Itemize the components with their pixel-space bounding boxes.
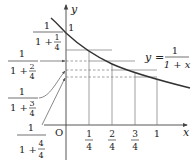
tick-1: 1 [154, 128, 160, 139]
left-label-4-den-den: 4 [38, 151, 43, 160]
left-label-4-num: 1 [28, 122, 34, 133]
tick-1-4-num: 1 [86, 129, 92, 139]
left-label-4-den-a: 1 + [19, 144, 37, 155]
function-num: 1 [172, 45, 178, 56]
tick-2-4-num: 2 [109, 129, 115, 139]
left-label-1-den-den: 4 [54, 43, 59, 52]
left-label-3-den-num: 3 [29, 99, 34, 108]
left-label-1-den-a: 1 + [35, 36, 53, 47]
left-label-3: 1 1 + 3 4 [8, 86, 38, 118]
tick-3-4-den: 4 [132, 142, 138, 152]
origin-label: O [55, 127, 63, 138]
left-label-3-den-a: 1 + [10, 102, 28, 113]
left-label-2-num: 1 [19, 48, 25, 59]
left-label-4: 1 1 + 4 4 [17, 122, 46, 160]
left-label-2-den-a: 1 + [10, 65, 28, 76]
left-label-3-den-den: 4 [29, 109, 34, 118]
tick-3-4-num: 3 [132, 129, 138, 139]
left-label-1-den-num: 1 [54, 33, 59, 42]
left-label-4-den-num: 4 [38, 139, 43, 148]
function-lhs: y [144, 51, 152, 64]
left-label-3-num: 1 [19, 86, 25, 97]
left-label-2: 1 1 + 2 4 [8, 48, 38, 81]
left-label-2-den-num: 2 [29, 62, 34, 71]
y-axis-label: y [70, 3, 78, 16]
tick-2-4-den: 4 [109, 142, 115, 152]
tick-1-4-den: 4 [86, 142, 92, 152]
left-label-2-den-den: 4 [29, 72, 34, 81]
leader-arrow-3 [39, 71, 65, 98]
diagram-canvas: y = 1 1 + x y x O 1 1 4 2 4 3 4 1 1 1 + … [0, 0, 193, 162]
x-axis-label: x [183, 126, 190, 139]
left-label-1-num: 1 [44, 20, 50, 31]
function-den: 1 + x [164, 59, 191, 70]
y-intercept-label: 1 [68, 22, 74, 33]
leader-arrow-4 [42, 78, 65, 125]
